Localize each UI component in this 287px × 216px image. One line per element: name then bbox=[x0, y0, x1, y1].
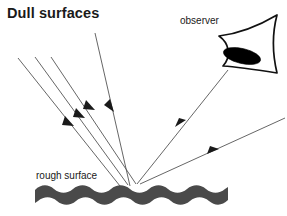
page-title: Dull surfaces bbox=[7, 5, 99, 21]
observer-label: observer bbox=[180, 15, 220, 26]
dull-surfaces-diagram: Dull surfaces bbox=[0, 0, 287, 216]
rough-surface-label: rough surface bbox=[36, 170, 98, 181]
diagram-canvas: Dull surfaces bbox=[0, 0, 287, 216]
